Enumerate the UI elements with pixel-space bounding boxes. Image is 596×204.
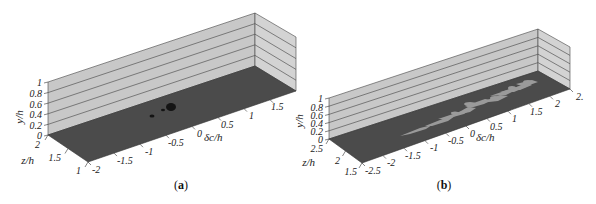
z-axis-label: z/h [20, 154, 34, 166]
y-tick: 1 [318, 93, 323, 104]
figure: 0 0.2 0.4 0.6 0.8 1 y/h 2 1.5 1 z/h [0, 0, 596, 204]
x-tick: -1.5 [405, 150, 421, 161]
y-axis-label: y/h [293, 114, 305, 129]
x-tick: -1 [430, 142, 438, 153]
panel-a: 0 0.2 0.4 0.6 0.8 1 y/h 2 1.5 1 z/h [13, 13, 296, 192]
x-axis-label: δc/h [476, 131, 495, 143]
x-tick: 0 [470, 128, 475, 139]
x-tick: 1.5 [530, 106, 543, 117]
x-tick: -0.5 [168, 137, 184, 148]
z-tick: 1.5 [49, 152, 62, 163]
x-tick: -2 [92, 164, 100, 175]
x-tick: 0 [197, 128, 202, 139]
z-tick: 1 [76, 165, 81, 176]
x-tick: 1 [249, 110, 254, 121]
x-tick: -2 [387, 157, 395, 168]
caption-a: (a) [174, 178, 188, 192]
x-tick: -2.5 [365, 165, 381, 176]
z-tick: 2 [335, 155, 340, 166]
y-tick: 0.6 [30, 99, 43, 110]
x-axis-label: δc/h [204, 131, 223, 143]
x-tick: -0.5 [448, 135, 464, 146]
y-axis-b: 0 0.2 0.4 0.6 0.8 1 y/h [293, 93, 329, 145]
z-axis-label: z/h [301, 156, 315, 168]
x-tick: 1.5 [271, 101, 284, 112]
caption-b: (b) [437, 178, 452, 192]
x-tick: 2. [576, 91, 584, 102]
z-tick: 2 [35, 139, 40, 150]
y-tick: 1 [37, 77, 42, 88]
y-tick: 0.2 [30, 120, 43, 131]
z-tick: 1.5 [345, 166, 358, 177]
y-axis-a: 0 0.2 0.4 0.6 0.8 1 y/h [13, 77, 48, 141]
y-tick: 0.8 [30, 88, 43, 99]
z-tick: 2.5 [311, 143, 324, 154]
y-axis-label: y/h [13, 110, 25, 125]
x-tick: -1.5 [117, 155, 133, 166]
y-tick: 0.4 [30, 109, 43, 120]
x-tick: 1 [512, 113, 517, 124]
x-tick: -1 [145, 146, 153, 157]
x-tick: 2 [555, 98, 560, 109]
panel-b: 0 0.2 0.4 0.6 0.8 1 y/h 2.5 2 1.5 z/h [293, 29, 584, 192]
x-tick: 0.5 [221, 119, 234, 130]
